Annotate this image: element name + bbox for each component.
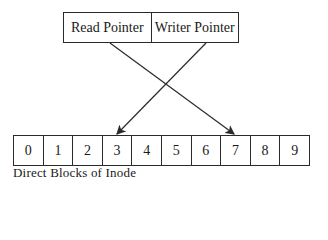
- caption: Direct Blocks of Inode: [13, 165, 136, 181]
- block-6: 6: [191, 136, 221, 165]
- direct-blocks-row: 0 1 2 3 4 5 6 7 8 9: [13, 135, 310, 166]
- read-pointer-arrow: [110, 43, 234, 134]
- block-7: 7: [220, 136, 250, 165]
- block-2: 2: [72, 136, 102, 165]
- block-1: 1: [43, 136, 73, 165]
- block-0: 0: [14, 136, 43, 165]
- block-9: 9: [279, 136, 309, 165]
- block-3: 3: [102, 136, 132, 165]
- writer-pointer-arrow: [117, 43, 206, 134]
- block-5: 5: [161, 136, 191, 165]
- block-4: 4: [131, 136, 161, 165]
- block-8: 8: [250, 136, 280, 165]
